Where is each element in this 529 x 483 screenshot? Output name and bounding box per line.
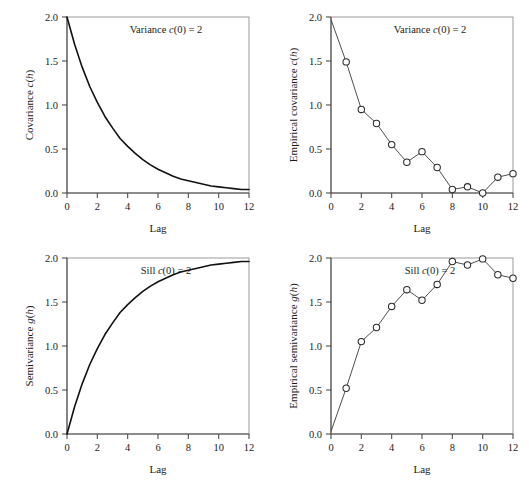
x-axis-title: Lag — [149, 222, 167, 234]
y-tick-label: 0.0 — [309, 188, 322, 199]
x-tick-label: 8 — [450, 201, 455, 212]
y-tick-label: 1.0 — [309, 341, 322, 352]
x-tick-label: 6 — [419, 442, 424, 453]
data-point-marker — [404, 159, 410, 165]
x-tick-label: 10 — [477, 442, 488, 453]
data-point-marker — [510, 275, 516, 281]
plot-frame — [67, 17, 249, 193]
model-curve — [67, 262, 249, 434]
data-point-marker — [343, 385, 349, 391]
y-tick-label: 1.0 — [45, 341, 58, 352]
plot-frame — [331, 258, 513, 434]
y-tick-label: 1.5 — [45, 297, 58, 308]
x-tick-label: 6 — [155, 442, 160, 453]
y-axis-title: Empirical semivariance g(h) — [287, 283, 300, 409]
axes — [67, 17, 249, 193]
y-axis-title: Empirical covariance c(h) — [287, 48, 300, 163]
x-tick-label: 12 — [508, 442, 519, 453]
x-tick-label: 6 — [155, 201, 160, 212]
panel-semivariance-model: 0246810120.00.51.01.52.0Sill c(0) = 2Lag… — [0, 241, 264, 482]
plot-frame — [331, 17, 513, 193]
x-tick-label: 10 — [477, 201, 488, 212]
plot-annotation: Sill c(0) = 2 — [141, 265, 192, 277]
x-tick-label: 10 — [213, 201, 224, 212]
y-tick-label: 0.0 — [45, 188, 58, 199]
data-point-marker — [510, 170, 516, 176]
x-axis-title: Lag — [413, 463, 431, 475]
x-tick-label: 12 — [244, 201, 255, 212]
data-point-marker — [388, 141, 394, 147]
chart-covariance-model: 0246810120.00.51.01.52.0Variance c(0) = … — [0, 0, 264, 241]
data-point-marker — [449, 186, 455, 192]
data-point-marker — [358, 338, 364, 344]
data-point-marker — [479, 190, 485, 196]
point-connector — [331, 259, 513, 431]
data-point-marker — [434, 281, 440, 287]
data-point-marker — [388, 303, 394, 309]
point-connector — [331, 20, 513, 193]
y-tick-label: 2.0 — [309, 253, 322, 264]
y-tick-label: 0.0 — [309, 429, 322, 440]
x-tick-label: 2 — [359, 442, 364, 453]
x-tick-label: 12 — [508, 201, 519, 212]
y-tick-label: 0.5 — [45, 385, 58, 396]
chart-empirical-covariance: 0246810120.00.51.01.52.0Variance c(0) = … — [264, 0, 528, 241]
plot-frame — [67, 258, 249, 434]
x-axis-title: Lag — [149, 463, 167, 475]
data-point-marker — [419, 297, 425, 303]
x-tick-label: 4 — [389, 201, 395, 212]
x-tick-label: 12 — [244, 442, 255, 453]
data-point-marker — [419, 148, 425, 154]
y-tick-label: 1.5 — [45, 56, 58, 67]
data-point-marker — [358, 106, 364, 112]
x-tick-label: 8 — [450, 442, 455, 453]
x-tick-label: 4 — [125, 201, 131, 212]
x-tick-label: 0 — [64, 201, 69, 212]
y-tick-label: 1.0 — [45, 100, 58, 111]
y-tick-label: 2.0 — [45, 12, 58, 23]
y-axis-title: Semivariance g(h) — [23, 305, 36, 386]
axes — [331, 17, 513, 193]
y-tick-label: 0.5 — [309, 144, 322, 155]
x-tick-label: 0 — [328, 442, 333, 453]
data-point-marker — [373, 120, 379, 126]
y-tick-label: 2.0 — [45, 253, 58, 264]
axes — [67, 258, 249, 434]
y-tick-label: 0.0 — [45, 429, 58, 440]
x-tick-label: 0 — [64, 442, 69, 453]
y-axis-title: Covariance c(h) — [23, 69, 36, 140]
data-point-marker — [343, 59, 349, 65]
model-curve — [67, 17, 249, 189]
data-point-marker — [479, 256, 485, 262]
panel-empirical-covariance: 0246810120.00.51.01.52.0Variance c(0) = … — [264, 0, 528, 241]
y-tick-label: 1.5 — [309, 297, 322, 308]
x-tick-label: 4 — [389, 442, 395, 453]
data-point-marker — [449, 258, 455, 264]
x-tick-label: 4 — [125, 442, 131, 453]
x-tick-label: 8 — [186, 201, 191, 212]
axes — [331, 258, 513, 434]
data-point-marker — [404, 286, 410, 292]
chart-semivariance-model: 0246810120.00.51.01.52.0Sill c(0) = 2Lag… — [0, 241, 264, 482]
x-tick-label: 10 — [213, 442, 224, 453]
y-tick-label: 1.5 — [309, 56, 322, 67]
data-point-marker — [373, 324, 379, 330]
y-tick-label: 0.5 — [45, 144, 58, 155]
y-tick-label: 2.0 — [309, 12, 322, 23]
data-point-marker — [495, 272, 501, 278]
x-tick-label: 2 — [359, 201, 364, 212]
plot-annotation: Variance c(0) = 2 — [394, 24, 467, 36]
data-point-marker — [495, 174, 501, 180]
data-point-marker — [434, 164, 440, 170]
y-tick-label: 1.0 — [309, 100, 322, 111]
four-panel-variogram-figure: 0246810120.00.51.01.52.0Variance c(0) = … — [0, 0, 529, 483]
panel-covariance-model: 0246810120.00.51.01.52.0Variance c(0) = … — [0, 0, 264, 241]
x-tick-label: 2 — [95, 201, 100, 212]
plot-annotation: Variance c(0) = 2 — [130, 24, 203, 36]
y-tick-label: 0.5 — [309, 385, 322, 396]
x-tick-label: 8 — [186, 442, 191, 453]
x-tick-label: 2 — [95, 442, 100, 453]
data-point-marker — [464, 262, 470, 268]
plot-annotation: Sill c(0) = 2 — [405, 265, 456, 277]
x-tick-label: 0 — [328, 201, 333, 212]
